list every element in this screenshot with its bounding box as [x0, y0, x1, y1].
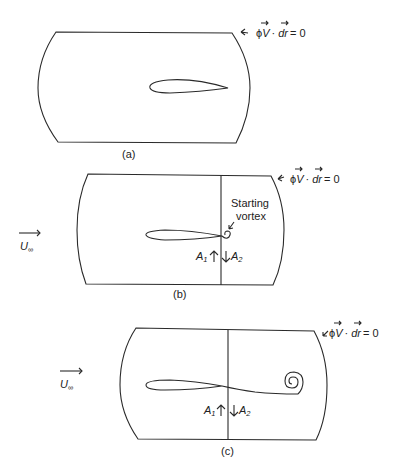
- kelvin-circulation-diagram: ϕV·dr= 0 (a) Starting vortex U∞ A1 A2: [0, 0, 397, 472]
- area-a2-label-b: A2: [230, 250, 243, 264]
- contour-pointer-arrow-a: [241, 29, 248, 35]
- svg-text:ϕV·dr= 0: ϕV·dr= 0: [290, 173, 340, 185]
- caption-c: (c): [221, 445, 234, 457]
- up-arrow-icon: [210, 251, 218, 262]
- contour-b: [77, 174, 284, 285]
- panel-a: ϕV·dr= 0 (a): [38, 21, 306, 160]
- contour-c: [120, 328, 327, 440]
- caption-b: (b): [173, 288, 186, 300]
- panel-b: Starting vortex U∞ A1 A2 ϕV·dr= 0 (b): [19, 167, 340, 300]
- freestream-arrow-c: [60, 368, 82, 374]
- svg-text:ϕV·dr= 0: ϕV·dr= 0: [329, 327, 379, 339]
- circulation-equation-b: ϕV·dr= 0: [290, 167, 340, 185]
- circulation-equation-c: ϕV·dr= 0: [329, 321, 379, 339]
- svg-text:ϕV·dr= 0: ϕV·dr= 0: [256, 27, 306, 39]
- freestream-label-c: U∞: [60, 378, 73, 392]
- panel-c: U∞ A1 A2 ϕV·dr= 0 (c): [60, 321, 379, 457]
- wake-c: [222, 386, 298, 394]
- contour-a: [38, 32, 250, 143]
- airfoil-a: [150, 80, 228, 93]
- freestream-arrow-b: [19, 230, 40, 236]
- circulation-equation-a: ϕV·dr= 0: [256, 21, 306, 39]
- down-arrow-icon: [230, 405, 238, 416]
- vortex-pointer-arrow: [229, 222, 234, 229]
- vortex-label-line1: Starting: [231, 197, 269, 209]
- airfoil-c: [146, 380, 222, 390]
- airfoil-b: [146, 230, 222, 240]
- starting-vortex-b: [222, 231, 230, 238]
- contour-pointer-arrow-b: [278, 175, 284, 181]
- area-a1-label-b: A1: [195, 250, 208, 264]
- caption-a: (a): [122, 148, 135, 160]
- area-a2-label-c: A2: [238, 404, 251, 418]
- down-arrow-icon: [222, 251, 230, 262]
- starting-vortex-c: [285, 372, 303, 394]
- up-arrow-icon: [217, 405, 225, 416]
- freestream-label-b: U∞: [20, 240, 33, 254]
- area-a1-label-c: A1: [203, 404, 216, 418]
- vortex-label-line2: vortex: [236, 210, 266, 222]
- contour-pointer-arrow-c: [323, 331, 328, 336]
